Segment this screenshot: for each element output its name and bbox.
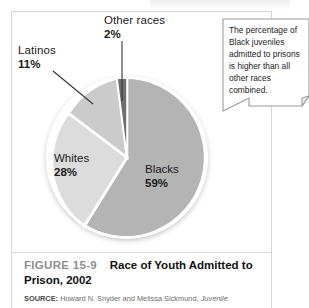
pie-label-latinos-percent: 11%	[18, 58, 56, 72]
caption-divider	[12, 252, 271, 253]
source-text: Howard N. Snyder and Melissa Sickmund,	[58, 294, 201, 303]
pie-label-whites-name: Whites	[54, 152, 89, 166]
pie-label-blacks-name: Blacks	[145, 163, 179, 177]
pie-label-other-races-percent: 2%	[104, 28, 165, 42]
pie-label-blacks-percent: 59%	[145, 177, 179, 191]
pie-label-latinos: Latinos 11%	[18, 44, 56, 71]
pie-label-whites: Whites 28%	[54, 152, 89, 180]
pie-chart: Other races 2% Latinos 11% Whites 28% Bl…	[0, 0, 309, 250]
figure-caption: FIGURE 15-9 Race of Youth Admitted to Pr…	[24, 258, 264, 288]
callout-text: The percentage of Black juveniles admitt…	[229, 24, 303, 97]
callout-folded-corner	[302, 96, 309, 106]
pie-label-whites-percent: 28%	[54, 166, 89, 180]
callout-box: The percentage of Black juveniles admitt…	[222, 18, 308, 110]
pie-label-other-races-name: Other races	[104, 14, 165, 28]
pie-label-other-races: Other races 2%	[104, 14, 165, 41]
pie-label-latinos-name: Latinos	[18, 44, 56, 58]
source-label: SOURCE:	[24, 294, 58, 303]
pie-label-blacks: Blacks 59%	[145, 163, 179, 191]
source-italic-title: Juvenile	[201, 294, 228, 303]
figure-number: FIGURE 15-9	[24, 259, 97, 271]
figure-source: SOURCE: Howard N. Snyder and Melissa Sic…	[24, 293, 272, 304]
